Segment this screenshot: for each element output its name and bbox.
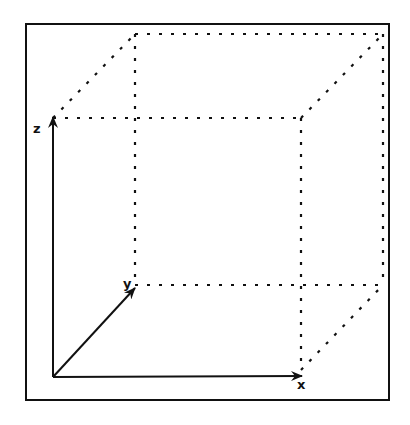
- axes: [53, 117, 302, 377]
- x-axis: [53, 376, 302, 377]
- cube-edges: [53, 34, 383, 370]
- x-axis-label: x: [297, 377, 306, 392]
- depth-edge-bottom-right: [301, 285, 383, 370]
- depth-edge-top-left: [53, 34, 135, 118]
- outer-frame: [26, 24, 389, 400]
- z-axis-label: z: [33, 121, 41, 136]
- y-axis: [53, 288, 135, 377]
- y-axis-label: y: [123, 276, 132, 291]
- depth-edge-top-right: [301, 34, 383, 118]
- coordinate-cube-diagram: z x y: [0, 0, 410, 425]
